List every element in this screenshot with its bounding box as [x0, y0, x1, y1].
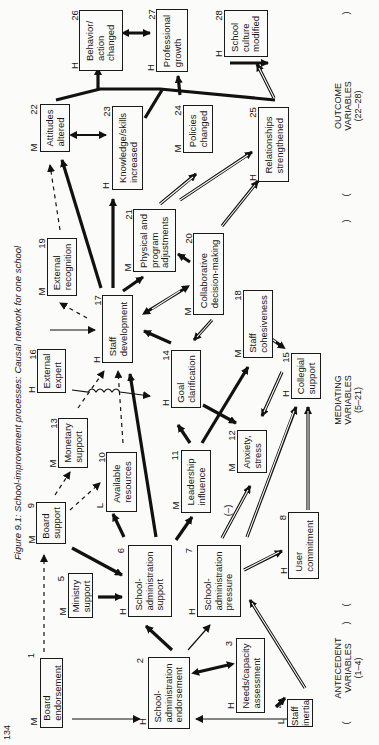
node-8: User commitment — [288, 512, 319, 579]
node-rating: L — [275, 719, 286, 724]
page-number: 134 — [2, 725, 12, 740]
node-25: Relationships strengthened — [258, 107, 289, 182]
node-rating: H — [278, 567, 289, 574]
bracket-mark: ( — [341, 194, 351, 197]
node-20: Collaborative decision-making — [193, 233, 224, 315]
node-17: Staff development — [102, 295, 133, 363]
node-rating: H — [137, 718, 148, 725]
bracket-mark: ( — [341, 722, 351, 725]
node-rating: H — [26, 386, 37, 393]
node-5: Ministry support — [68, 573, 93, 618]
node-number: 14 — [160, 350, 171, 361]
node-13: Monetary support — [58, 418, 88, 468]
node-22: Attitudes altered — [40, 104, 70, 152]
section-antecedent: ANTECEDENT VARIABLES (1–4) — [333, 637, 363, 698]
node-number: 18 — [232, 290, 243, 301]
node-number: 4 — [273, 703, 284, 708]
node-rating: M — [47, 460, 58, 468]
node-2: School- administration endorsement — [148, 657, 190, 729]
node-rating: M — [182, 308, 193, 316]
node-number: 17 — [92, 295, 103, 306]
node-21: Physical and program adjustments — [133, 209, 176, 272]
node-number: 24 — [172, 105, 183, 116]
node-number: 23 — [101, 106, 112, 117]
node-number: 1 — [25, 653, 36, 658]
node-number: 7 — [183, 548, 194, 553]
node-7: School- administration pressure — [197, 545, 241, 617]
node-6: School- administration support — [128, 545, 172, 617]
node-rating: H — [91, 356, 102, 363]
node-rating: H — [280, 390, 291, 397]
node-rating: M — [28, 718, 39, 726]
node-10: Available resources — [106, 452, 137, 512]
node-rating: M — [170, 502, 181, 510]
node-rating: H — [160, 399, 171, 406]
node-rating: M — [36, 288, 47, 296]
node-23: Knowledge/skills increased — [112, 106, 143, 190]
node-rating: M — [28, 144, 39, 152]
node-number: 25 — [247, 107, 258, 118]
node-28: School culture modified — [224, 10, 268, 57]
node-4: Staff inertia — [287, 699, 313, 727]
node-number: 21 — [123, 209, 134, 220]
node-number: 19 — [36, 238, 47, 249]
node-18: Staff cohesiveness — [243, 290, 273, 358]
node-number: 6 — [115, 548, 126, 553]
node-rating: H — [186, 608, 197, 615]
node-9: Board support — [36, 502, 66, 544]
node-14: Goal clarification — [171, 350, 201, 408]
node-rating: M — [57, 608, 68, 616]
section-outcome: OUTCOME VARIABLES (22–28) — [333, 81, 363, 130]
node-number: 3 — [223, 641, 234, 646]
node-number: 28 — [213, 10, 224, 21]
negative-link-label: (–) — [222, 505, 233, 517]
node-number: 15 — [280, 352, 291, 363]
node-rating: H — [225, 702, 236, 709]
node-rating: L — [94, 503, 105, 508]
node-number: 20 — [183, 233, 194, 244]
node-number: 22 — [28, 104, 39, 115]
node-number: 2 — [134, 658, 145, 663]
node-12: Anxiety, stress — [237, 430, 267, 473]
node-rating: M — [122, 264, 133, 272]
node-number: 16 — [27, 349, 38, 360]
node-rating: H — [117, 608, 128, 615]
node-16: External expert — [37, 349, 66, 393]
node-number: 11 — [169, 451, 180, 461]
node-number: 13 — [48, 418, 59, 429]
node-11: Leadership influence — [181, 450, 211, 513]
node-rating: H — [100, 182, 111, 189]
section-mediating: MEDIATING VARIABLES (5–21) — [333, 375, 363, 424]
node-24: Policies changed — [183, 105, 213, 153]
bracket-mark: ) — [341, 220, 351, 223]
node-rating: M — [26, 536, 37, 544]
node-number: 8 — [277, 515, 288, 520]
node-rating: M — [172, 145, 183, 153]
node-26: Behavior/ action changed — [79, 10, 123, 71]
node-rating: H — [69, 62, 80, 69]
figure-caption: Figure 9.1: School-improvement processes… — [12, 246, 23, 560]
node-number: 5 — [55, 576, 66, 581]
node-number: 26 — [69, 10, 80, 21]
node-15: Collegial support — [291, 353, 321, 399]
node-3: Needs/capacity assessment — [236, 638, 265, 713]
node-1: Board endorsement — [40, 658, 63, 728]
node-number: 9 — [25, 503, 36, 508]
node-number: 10 — [96, 452, 107, 463]
node-number: 12 — [226, 430, 237, 441]
bracket-mark: ) — [341, 12, 351, 15]
node-number: 27 — [146, 9, 157, 20]
node-27: Professional growth — [156, 9, 188, 72]
node-rating: H — [145, 64, 156, 71]
node-rating: M — [226, 464, 237, 472]
node-19: External recognition — [47, 238, 77, 296]
bracket-mark: ( — [341, 604, 351, 607]
node-rating: H — [247, 174, 258, 181]
bracket-mark: ) — [341, 622, 351, 625]
node-rating: H — [213, 50, 224, 57]
node-rating: M — [232, 350, 243, 358]
